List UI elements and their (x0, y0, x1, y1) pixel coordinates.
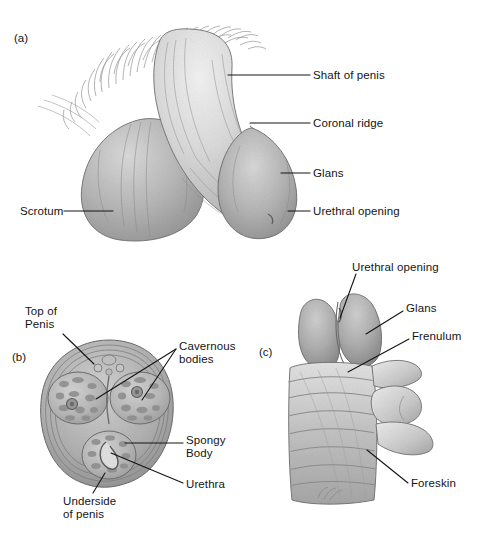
panel-a-artwork (38, 26, 297, 241)
label-spongy-body: Spongy Body (186, 434, 226, 460)
label-glans-c: Glans (406, 302, 437, 315)
cavernous-body-right (110, 372, 170, 424)
label-coronal-ridge: Coronal ridge (313, 117, 383, 130)
label-shaft-of-penis: Shaft of penis (313, 69, 385, 82)
holding-thumb (371, 360, 433, 454)
panel-c-artwork (288, 294, 433, 504)
label-top-of-penis: Top of Penis (25, 305, 57, 331)
label-urethral-opening-c: Urethral opening (352, 261, 439, 274)
spongy-body (82, 431, 136, 479)
figure-canvas: (a) (b) (c) Shaft of penis Coronal ridge… (0, 0, 486, 535)
label-glans-a: Glans (313, 167, 344, 180)
label-urethra: Urethra (186, 478, 225, 491)
label-frenulum: Frenulum (412, 330, 461, 343)
label-urethral-opening-a: Urethral opening (313, 205, 400, 218)
cavernous-body-left (48, 372, 108, 424)
label-underside-of-penis: Underside of penis (63, 495, 116, 521)
panel-marker-c: (c) (259, 346, 272, 358)
panel-marker-b: (b) (12, 351, 26, 363)
panel-b-artwork (41, 340, 174, 487)
panel-marker-a: (a) (14, 32, 28, 44)
label-scrotum: Scrotum (20, 205, 64, 218)
pubic-hair-wisps (38, 95, 99, 136)
label-foreskin: Foreskin (411, 477, 456, 490)
label-cavernous-bodies: Cavernous bodies (179, 340, 236, 366)
